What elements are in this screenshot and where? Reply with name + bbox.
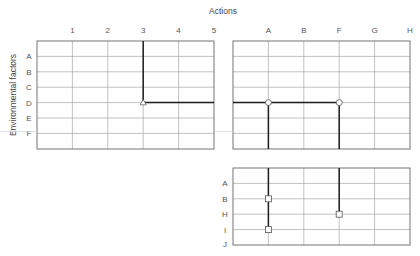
col-label: 2 (106, 26, 111, 35)
grid-bottom: A B H I J (222, 168, 410, 249)
row-label: J (223, 240, 227, 249)
row-label: B (26, 68, 31, 77)
grid-main-left: 1 2 3 4 5 A B C D E F (0, 26, 217, 149)
col-label: 1 (70, 26, 75, 35)
col-label: 3 (141, 26, 146, 35)
row-label: A (222, 179, 228, 188)
row-label: I (224, 226, 226, 235)
col-label: B (301, 26, 306, 35)
row-label: A (26, 52, 32, 61)
row-label: F (27, 129, 32, 138)
col-label: 5 (212, 26, 217, 35)
col-label: H (407, 26, 413, 35)
decision-diagram: Actions Environmental factors 1 2 3 4 5 … (0, 0, 420, 256)
circle-marker-icon (265, 100, 271, 106)
col-label: 4 (176, 26, 181, 35)
row-label: B (222, 195, 227, 204)
row-label: H (222, 210, 228, 219)
row-label: E (26, 114, 31, 123)
decision-path (233, 103, 339, 149)
square-marker-icon (265, 227, 271, 233)
square-marker-icon (265, 196, 271, 202)
grid-frame (37, 41, 214, 149)
grid-frame (233, 41, 410, 149)
grid-frame (233, 168, 410, 245)
col-label: A (266, 26, 272, 35)
x-axis-title: Actions (209, 6, 237, 16)
col-label: F (337, 26, 342, 35)
row-label: D (26, 99, 32, 108)
col-label: G (371, 26, 377, 35)
circle-marker-icon (336, 100, 342, 106)
row-label: C (26, 83, 32, 92)
y-axis-title: Environmental factors (8, 54, 18, 136)
square-marker-icon (336, 211, 342, 217)
grid-main-right: A B F G H (214, 26, 413, 149)
